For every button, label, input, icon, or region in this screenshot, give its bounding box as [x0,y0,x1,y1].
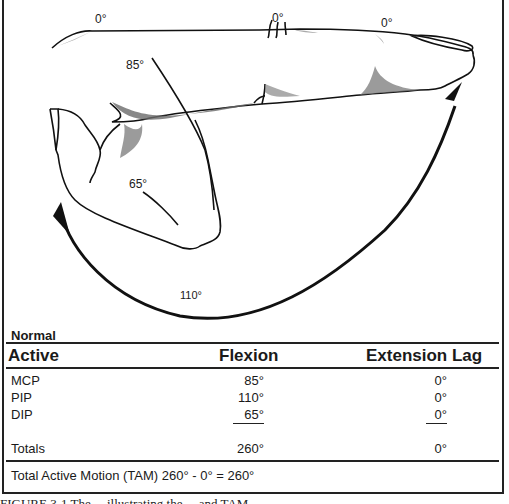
extension-sum-underline [426,423,447,424]
flexion-value: 110° [200,390,264,405]
header-active: Active [8,346,59,366]
header-flexion: Flexion [219,346,279,366]
section-title: Normal [11,328,56,343]
flexion-value: 65° [200,407,264,422]
pip-extension-label: 0° [272,11,283,25]
tam-formula: Total Active Motion (TAM) 260° - 0° = 26… [11,468,254,483]
mcp-flexion-label: 85° [126,58,144,72]
flexed-finger-icon [50,58,221,249]
figure-caption: FIGURE 3-1 The ... illustrating the ... … [0,494,261,504]
dip-flexion-label: 65° [129,177,147,191]
finger-flexion-illustration [0,0,509,330]
flexion-sum-underline [233,423,264,424]
totals-extension-lag: 0° [400,441,447,456]
extension-lag-value: 0° [400,373,447,388]
joint-label: DIP [11,407,33,422]
range-of-motion-arrow-icon [60,106,455,318]
totals-label: Totals [11,441,45,456]
joint-label: MCP [11,373,40,388]
extended-finger-icon [52,20,474,122]
joint-label: PIP [11,390,32,405]
table-top-rule [6,342,499,344]
extension-lag-value: 0° [400,407,447,422]
totals-rule [6,460,499,462]
mcp-extension-label: 0° [95,12,106,26]
pip-flexion-label: 110° [180,289,202,301]
header-rule [6,367,499,369]
header-extension-lag: Extension Lag [366,346,482,366]
flexion-value: 85° [200,373,264,388]
arrowhead-left-icon [53,202,70,235]
extension-lag-value: 0° [400,390,447,405]
totals-flexion: 260° [200,441,264,456]
dip-extension-label: 0° [381,16,392,30]
